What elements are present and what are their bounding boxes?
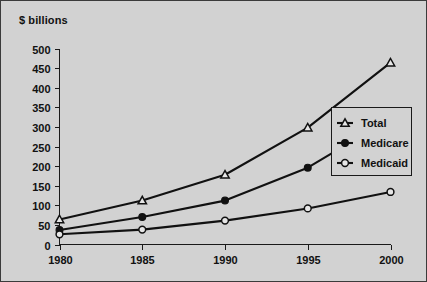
y-axis-tick-labels: 050100150200250300350400450500: [32, 44, 50, 252]
y-tick-label: 300: [32, 122, 50, 134]
y-tick-label: 500: [32, 44, 50, 56]
data-point-medicaid: [222, 217, 229, 224]
y-tick-label: 100: [32, 200, 50, 212]
y-tick-label: 350: [32, 102, 50, 114]
x-axis-ticks: [61, 245, 392, 250]
data-point-total: [386, 58, 394, 65]
x-tick-label: 1980: [48, 254, 72, 266]
chart-legend: TotalMedicareMedicaid: [332, 108, 412, 176]
figure-background: $ billions 05010015020025030035040045050…: [1, 1, 426, 281]
x-tick-label: 1990: [213, 254, 237, 266]
y-tick-label: 400: [32, 83, 50, 95]
legend-marker-medicare: [342, 140, 349, 147]
data-point-medicare: [222, 197, 229, 204]
y-tick-label: 50: [38, 220, 50, 232]
y-tick-label: 250: [32, 142, 50, 154]
y-tick-label: 450: [32, 63, 50, 75]
legend-marker-medicaid: [342, 160, 349, 167]
x-tick-label: 2000: [379, 254, 403, 266]
y-tick-label: 0: [44, 240, 50, 252]
data-point-medicare: [304, 164, 311, 171]
data-point-medicare: [139, 214, 146, 221]
legend-label-total: Total: [361, 117, 386, 129]
data-point-total: [55, 215, 63, 222]
data-point-medicaid: [304, 205, 311, 212]
legend-label-medicare: Medicare: [361, 137, 409, 149]
data-point-medicaid: [139, 226, 146, 233]
x-tick-label: 1985: [130, 254, 154, 266]
y-tick-label: 150: [32, 181, 50, 193]
data-point-total: [221, 171, 229, 178]
y-tick-label: 200: [32, 161, 50, 173]
x-tick-label: 1995: [296, 254, 320, 266]
data-point-medicaid: [56, 231, 63, 238]
line-chart-plot: 050100150200250300350400450500 198019851…: [1, 1, 427, 282]
x-axis-tick-labels: 19801985199019952000: [48, 254, 403, 266]
data-point-total: [138, 196, 146, 203]
chart-figure: $ billions 05010015020025030035040045050…: [0, 0, 427, 282]
legend-label-medicaid: Medicaid: [361, 157, 408, 169]
data-point-medicaid: [387, 189, 394, 196]
